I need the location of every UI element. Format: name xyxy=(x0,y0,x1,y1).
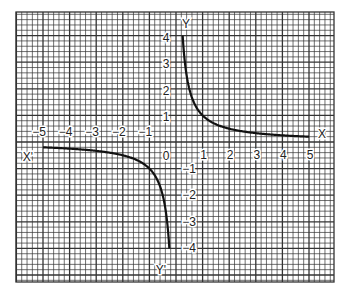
x-axis-neg-label: X' xyxy=(23,150,33,164)
y-tick-label: −3 xyxy=(182,215,196,229)
x-tick-label: 3 xyxy=(253,148,260,162)
x-tick-label: 4 xyxy=(280,148,287,162)
y-tick-label: 4 xyxy=(163,31,170,45)
y-tick-label: −4 xyxy=(182,241,196,255)
upper-branch-curve xyxy=(183,36,309,137)
y-tick-label: 2 xyxy=(163,84,170,98)
y-tick-label: 3 xyxy=(163,57,170,71)
origin-label: 0 xyxy=(163,149,170,163)
y-tick-label: 1 xyxy=(163,110,170,124)
y-tick-label: −1 xyxy=(182,162,196,176)
x-tick-label: −3 xyxy=(85,125,99,139)
x-tick-label: 1 xyxy=(200,148,207,162)
x-axis-label: X xyxy=(318,127,326,141)
y-tick-label: −2 xyxy=(182,188,196,202)
hyperbola-chart: −5−4−3−2−1123454321−1−2−3−40XX'YY' xyxy=(0,0,348,296)
y-axis-neg-label: Y' xyxy=(156,263,166,277)
y-axis-label: Y xyxy=(182,17,190,31)
graph-grid xyxy=(16,12,334,282)
lower-branch-curve xyxy=(43,147,169,248)
x-tick-label: −1 xyxy=(139,125,153,139)
x-tick-label: 5 xyxy=(307,148,314,162)
x-tick-label: −5 xyxy=(32,125,46,139)
x-tick-label: −2 xyxy=(112,125,126,139)
x-tick-label: −4 xyxy=(59,125,73,139)
x-tick-label: 2 xyxy=(227,148,234,162)
